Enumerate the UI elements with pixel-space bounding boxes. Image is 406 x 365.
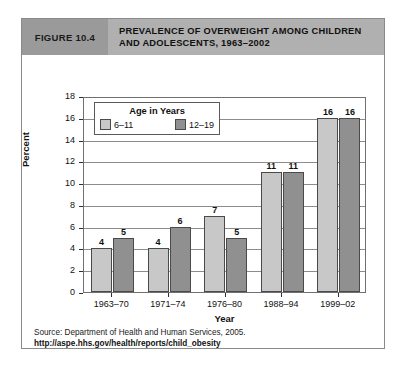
x-axis-tick-label: 1999–02: [308, 299, 368, 309]
bar: [204, 216, 225, 292]
x-axis-tick-mark: [225, 293, 226, 297]
figure-card: FIGURE 10.4 PREVALENCE OF OVERWEIGHT AMO…: [21, 18, 385, 349]
bar-group: 1111: [254, 98, 311, 292]
x-axis-tick-mark: [111, 293, 112, 297]
bar-value-label: 4: [91, 237, 112, 247]
figure-header: FIGURE 10.4 PREVALENCE OF OVERWEIGHT AMO…: [22, 19, 384, 55]
bar-value-label: 16: [317, 107, 338, 117]
chart-legend: Age in Years 6–1112–19: [94, 102, 220, 135]
bar-value-label: 11: [283, 161, 304, 171]
figure-number-label: FIGURE 10.4: [35, 32, 95, 43]
legend-label: 12–19: [189, 120, 214, 130]
y-axis-tick-label: 16: [53, 113, 75, 123]
figure-title-line-2: AND ADOLESCENTS, 1963–2002: [119, 37, 378, 50]
legend-item: 6–11: [100, 119, 133, 130]
legend-label: 6–11: [114, 120, 133, 130]
bar: [283, 172, 304, 292]
bar-value-label: 11: [261, 161, 282, 171]
y-axis-tick-label: 12: [53, 156, 75, 166]
y-axis-tick-label: 6: [53, 222, 75, 232]
y-axis-tick-label: 10: [53, 178, 75, 188]
x-axis-tick-label: 1988–94: [251, 299, 311, 309]
x-axis-tick-label: 1976–80: [195, 299, 255, 309]
bar-group: 1616: [310, 98, 367, 292]
bar: [317, 118, 338, 292]
y-axis-tick-label: 14: [53, 135, 75, 145]
x-axis-title: Year: [83, 313, 366, 324]
legend-title: Age in Years: [100, 106, 214, 116]
figure-number-block: FIGURE 10.4: [22, 19, 108, 55]
chart-body: Percent 024681012141618 45467511111616 1…: [22, 55, 384, 348]
y-axis-tick-mark: [79, 293, 83, 294]
x-axis-tick-mark: [168, 293, 169, 297]
x-axis-tick-mark: [281, 293, 282, 297]
source-url[interactable]: http://aspe.hhs.gov/health/reports/child…: [34, 338, 376, 349]
bar-value-label: 5: [226, 227, 247, 237]
x-axis-tick-label: 1963–70: [81, 299, 141, 309]
x-axis-tick-label: 1971–74: [138, 299, 198, 309]
bar: [226, 238, 247, 292]
source-text: Source: Department of Health and Human S…: [34, 327, 376, 338]
x-axis-tick-mark: [338, 293, 339, 297]
bar-value-label: 4: [148, 237, 169, 247]
bar: [339, 118, 360, 292]
bar-value-label: 16: [339, 107, 360, 117]
bar: [113, 238, 134, 292]
bar-value-label: 7: [204, 205, 225, 215]
y-axis-title: Percent: [20, 132, 31, 167]
legend-items: 6–1112–19: [100, 119, 214, 130]
legend-swatch: [100, 119, 111, 130]
y-axis-tick-label: 8: [53, 200, 75, 210]
y-axis-tick-label: 18: [53, 91, 75, 101]
bar: [261, 172, 282, 292]
bar: [148, 248, 169, 292]
bar: [91, 248, 112, 292]
y-axis-tick-label: 0: [53, 287, 75, 297]
bar: [170, 227, 191, 292]
bar-value-label: 6: [170, 216, 191, 226]
legend-item: 12–19: [175, 119, 214, 130]
bar-value-label: 5: [113, 227, 134, 237]
legend-swatch: [175, 119, 186, 130]
figure-title-block: PREVALENCE OF OVERWEIGHT AMONG CHILDREN …: [108, 19, 384, 55]
source-block: Source: Department of Health and Human S…: [34, 327, 376, 349]
y-axis-tick-label: 2: [53, 265, 75, 275]
figure-title-line-1: PREVALENCE OF OVERWEIGHT AMONG CHILDREN: [119, 25, 378, 38]
y-axis-tick-label: 4: [53, 243, 75, 253]
